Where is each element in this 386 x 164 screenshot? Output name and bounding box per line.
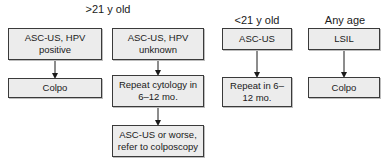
box-colpo-col4: Colpo [308,77,380,98]
box-repeat-cytology: Repeat cytology in 6–12 mo. [112,75,204,107]
box-label: Colpo [43,82,68,94]
box-ascus-or-worse: ASC-US or worse, refer to colposcopy [112,125,204,157]
box-repeat-in: Repeat in 6–12 mo. [222,77,292,107]
box-label: LSIL [334,33,354,45]
box-lsil: LSIL [308,28,380,50]
box-label: ASC-US, HPV unknown [115,32,201,56]
box-label: Repeat cytology in 6–12 mo. [115,79,201,103]
box-ascus-under21: ASC-US [222,28,292,50]
box-ascus-hpv-unknown: ASC-US, HPV unknown [112,28,204,60]
box-colpo-col1: Colpo [8,78,102,98]
box-label: Colpo [332,82,357,94]
box-label: Repeat in 6–12 mo. [225,80,289,104]
box-label: ASC-US, HPV positive [11,32,99,56]
box-ascus-hpv-positive: ASC-US, HPV positive [8,28,102,60]
box-label: ASC-US or worse, refer to colposcopy [115,129,201,153]
box-label: ASC-US [239,33,275,45]
